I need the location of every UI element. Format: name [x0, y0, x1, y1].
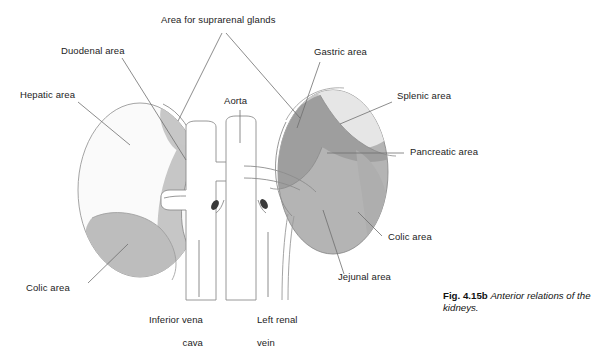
label-jejunal-area: Jejunal area — [338, 271, 391, 283]
label-colic-area-right-kidney: Colic area — [26, 282, 70, 294]
label-area-for-suprarenal-glands: Area for suprarenal glands — [161, 14, 276, 26]
renal-vein-label-line-1: Left renal — [257, 314, 298, 325]
label-left-renal-vein: Left renal vein — [246, 302, 316, 350]
left-renal-artery-ostium — [258, 198, 269, 211]
label-duodenal-area: Duodenal area — [61, 45, 125, 57]
figure-caption: Fig. 4.15b Anterior relations of the kid… — [443, 290, 591, 315]
ivc-label-line-2: cava — [183, 337, 203, 348]
ivc-label-line-1: Inferior vena — [149, 314, 203, 325]
label-aorta: Aorta — [224, 95, 247, 107]
label-pancreatic-area: Pancreatic area — [410, 146, 478, 158]
label-splenic-area: Splenic area — [397, 90, 451, 102]
renal-vein-label-line-2: vein — [257, 337, 275, 348]
label-colic-area-left-kidney: Colic area — [388, 231, 432, 243]
label-gastric-area: Gastric area — [314, 46, 367, 58]
left-ureter — [282, 214, 288, 300]
figure-number: Fig. 4.15b — [443, 290, 488, 301]
leader-suprarenal-right — [178, 33, 222, 121]
label-hepatic-area: Hepatic area — [20, 89, 75, 101]
aorta — [226, 116, 256, 300]
label-inferior-vena-cava: Inferior vena cava — [125, 302, 203, 350]
left-kidney — [268, 86, 398, 300]
